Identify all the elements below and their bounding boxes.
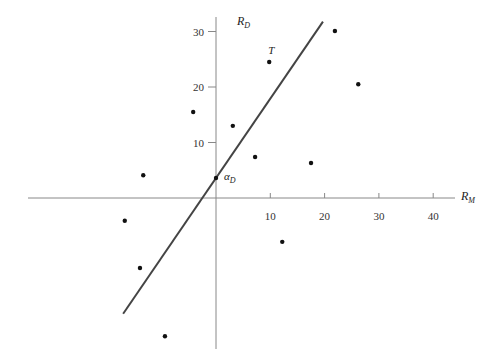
data-point: [333, 29, 337, 33]
data-point: [280, 240, 284, 244]
data-point: [231, 124, 235, 128]
y-axis-label: RD: [236, 14, 250, 30]
regression-line-layer: [123, 22, 323, 314]
x-tick-label: 40: [428, 210, 440, 222]
axes: 10203040102030: [28, 17, 455, 349]
data-point: [309, 161, 313, 165]
x-tick-label: 20: [319, 210, 331, 222]
data-point: [141, 173, 145, 177]
scatter-chart: 10203040102030 RMRDTαD: [0, 0, 497, 361]
data-point: [356, 82, 360, 86]
data-point: [163, 334, 167, 338]
y-tick-label: 10: [193, 137, 205, 149]
y-tick-label: 20: [193, 81, 205, 93]
regression-line: [123, 22, 323, 314]
intercept-label: αD: [224, 170, 236, 185]
data-point: [123, 219, 127, 223]
y-axis-label-subscript: D: [243, 21, 250, 30]
intercept-point: [214, 176, 218, 180]
data-point: [191, 110, 195, 114]
data-point: [253, 155, 257, 159]
x-axis-label-subscript: M: [467, 196, 476, 205]
data-point: [267, 60, 271, 64]
x-tick-label: 30: [373, 210, 385, 222]
y-tick-label: 30: [193, 26, 205, 38]
x-tick-label: 10: [265, 210, 277, 222]
data-point: [138, 266, 142, 270]
intercept-label-subscript: D: [229, 176, 236, 185]
point-label-t: T: [268, 44, 275, 56]
data-points: [123, 29, 361, 339]
x-axis-label: RM: [460, 189, 476, 205]
